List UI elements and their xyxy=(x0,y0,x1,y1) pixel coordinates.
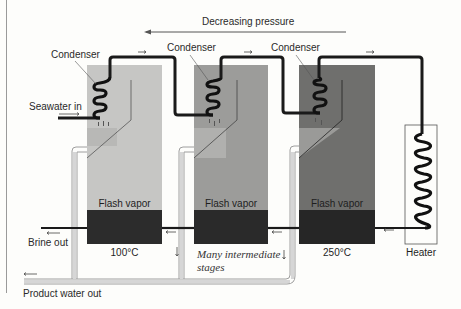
decreasing-pressure-label: Decreasing pressure xyxy=(202,17,294,27)
brine-out-label: Brine out xyxy=(28,238,68,248)
temperature-label-1: 100°C xyxy=(87,248,162,258)
condenser-label-3: Condenser xyxy=(271,43,320,53)
flash-vapor-label-1: Flash vapor xyxy=(87,199,162,209)
product-pipe-fill xyxy=(24,280,290,283)
seawater-in-label: Seawater in xyxy=(29,102,82,112)
product-water-out-label: Product water out xyxy=(23,289,101,299)
stage-2-tank xyxy=(194,65,268,244)
decreasing-pressure-arrow xyxy=(144,30,346,35)
stage-3-tank xyxy=(299,65,375,244)
flash-vapor-label-3: Flash vapor xyxy=(299,199,375,209)
msf-desalination-diagram: Decreasing pressure Condenser Condenser … xyxy=(0,0,461,309)
intermediate-stages-label: Many intermediate stages xyxy=(197,248,280,273)
stage-1-tank xyxy=(87,65,162,244)
riser-fill-3 xyxy=(291,152,294,279)
condenser-label-1: Condenser xyxy=(51,50,100,60)
heater-label: Heater xyxy=(403,248,439,258)
intermediate-line-2: stages xyxy=(197,261,225,273)
temperature-label-3: 250°C xyxy=(299,248,375,258)
flash-vapor-label-2: Flash vapor xyxy=(194,199,268,209)
riser-fill-2 xyxy=(180,152,183,279)
intermediate-line-1: Many intermediate xyxy=(197,248,280,260)
riser-fill-1 xyxy=(73,152,76,279)
condenser-label-2: Condenser xyxy=(167,43,216,53)
